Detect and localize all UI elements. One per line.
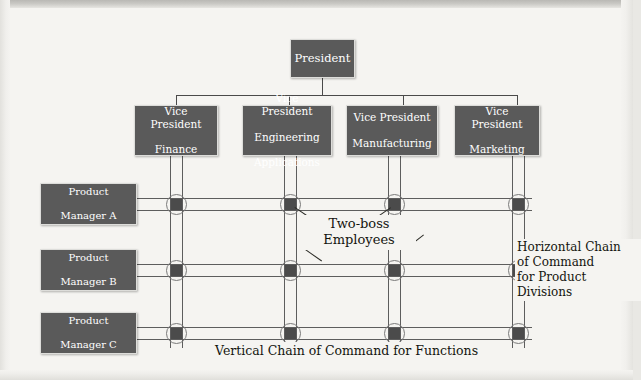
vp-2-line2: Engineering	[246, 131, 328, 144]
two-boss-node-r3c2[interactable]	[280, 323, 301, 344]
horizontal-chain-3a	[137, 327, 532, 328]
two-boss-node-r2c3[interactable]	[384, 260, 405, 281]
vertical-chain-1b	[182, 156, 183, 348]
page-frame-top	[0, 0, 633, 8]
vp-3-line1: Vice President	[349, 111, 434, 124]
horizontal-chain-line2: of Command	[517, 255, 639, 270]
horizontal-chain-2b	[137, 276, 532, 277]
vertical-chain-2b	[296, 156, 297, 348]
vp-2-line1: Vice President	[246, 92, 328, 118]
horizontal-chain-2a	[137, 264, 532, 265]
annotation-horizontal-chain: Horizontal Chain of Command for Product …	[515, 239, 641, 301]
annotation-two-boss-employees: Two-boss Employees	[302, 215, 416, 250]
two-boss-node-r3c1[interactable]	[166, 323, 187, 344]
vertical-chain-2a	[284, 156, 285, 348]
two-boss-node-r1c1[interactable]	[166, 194, 187, 215]
vp-4-line1: Vice President	[458, 105, 536, 131]
two-boss-node-r1c4[interactable]	[508, 194, 529, 215]
vp-drop-line-3	[403, 95, 404, 105]
org-box-vp-engineering-applications[interactable]: Vice President Engineering Applications	[242, 105, 332, 156]
vp-1-line1: Vice President	[138, 105, 214, 131]
horizontal-chain-1a	[137, 198, 532, 199]
pm-2-line1: Product	[57, 252, 119, 264]
vp-drop-line-1	[176, 95, 177, 105]
pm-3-line2: Manager C	[57, 339, 120, 351]
org-box-vp-finance[interactable]: Vice President Finance	[134, 105, 218, 156]
vertical-chain-3a	[388, 156, 389, 348]
two-boss-node-r3c3[interactable]	[384, 323, 405, 344]
horizontal-chain-1b	[137, 210, 532, 211]
vp-bus-line	[176, 95, 517, 96]
vp-drop-line-4	[517, 95, 518, 105]
leader-line-node-r2c2	[303, 248, 322, 261]
pm-1-line2: Manager A	[57, 210, 119, 222]
page-frame-left	[0, 0, 10, 380]
horizontal-chain-line3: for Product	[517, 270, 639, 285]
horizontal-chain-line1: Horizontal Chain	[517, 240, 639, 255]
vp-2-line3: Applications	[246, 156, 328, 169]
vp-4-line2: Marketing	[458, 143, 536, 156]
pm-1-line1: Product	[57, 186, 119, 198]
two-boss-node-r1c3[interactable]	[384, 194, 405, 215]
annotation-vertical-chain: Vertical Chain of Command for Functions	[212, 342, 481, 360]
org-box-product-manager-c[interactable]: Product Manager C	[40, 312, 137, 354]
vertical-chain-1a	[170, 156, 171, 348]
org-box-vp-manufacturing[interactable]: Vice President Manufacturing	[346, 105, 438, 156]
page-frame-right	[621, 0, 633, 380]
org-box-president[interactable]: President	[290, 39, 355, 78]
horizontal-chain-3b	[137, 339, 532, 340]
two-boss-node-r2c2[interactable]	[280, 260, 301, 281]
diagram-canvas: President Vice President Finance Vice Pr…	[10, 8, 621, 370]
pm-3-line1: Product	[57, 315, 120, 327]
two-boss-line2: Employees	[304, 232, 414, 248]
org-box-product-manager-b[interactable]: Product Manager B	[40, 249, 137, 291]
two-boss-node-r3c4[interactable]	[508, 323, 529, 344]
two-boss-line1: Two-boss	[304, 216, 414, 232]
vp-3-line2: Manufacturing	[349, 137, 434, 150]
org-box-vp-marketing[interactable]: Vice President Marketing	[454, 105, 540, 156]
president-label: President	[292, 51, 354, 65]
two-boss-node-r2c1[interactable]	[166, 260, 187, 281]
horizontal-chain-line4: Divisions	[517, 285, 639, 300]
vertical-chain-4a	[512, 156, 513, 348]
two-boss-node-r1c2[interactable]	[280, 194, 301, 215]
vertical-chain-3b	[400, 156, 401, 348]
org-box-product-manager-a[interactable]: Product Manager A	[40, 183, 137, 225]
vp-1-line2: Finance	[138, 143, 214, 156]
pm-2-line2: Manager B	[57, 276, 119, 288]
page-frame-bottom	[0, 370, 633, 380]
